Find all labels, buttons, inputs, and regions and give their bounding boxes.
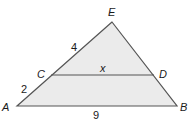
vertex-label-e: E bbox=[108, 7, 115, 18]
vertex-label-d: D bbox=[159, 69, 167, 80]
triangle-abe bbox=[17, 22, 177, 106]
segment-label-ec: 4 bbox=[71, 42, 77, 53]
triangle-diagram bbox=[0, 0, 193, 126]
vertex-label-a: A bbox=[2, 102, 9, 113]
vertex-label-c: C bbox=[37, 69, 45, 80]
segment-label-cd: x bbox=[100, 63, 106, 74]
vertex-label-b: B bbox=[180, 102, 187, 113]
segment-label-ca: 2 bbox=[21, 84, 27, 95]
segment-label-ab: 9 bbox=[93, 110, 99, 121]
